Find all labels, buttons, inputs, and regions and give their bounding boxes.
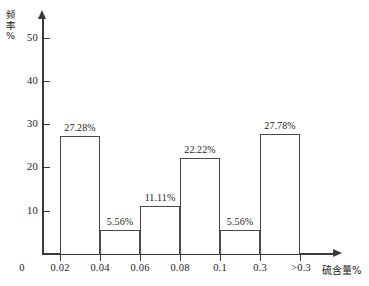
bar-5 <box>260 134 300 254</box>
bars-layer: 27.28% 5.56% 11.11% 22.22% 5.56% 27.78% <box>0 0 369 286</box>
bar-label-1: 5.56% <box>100 216 140 227</box>
bar-label-4: 5.56% <box>220 216 260 227</box>
bar-label-0: 27.28% <box>60 122 100 133</box>
bar-2 <box>140 206 180 254</box>
bar-4 <box>220 230 260 254</box>
bar-3 <box>180 158 220 254</box>
histogram-chart: 频 率 % 硫含量% 50 40 30 20 10 0 0.02 0.04 0.… <box>0 0 369 286</box>
bar-1 <box>100 230 140 254</box>
bar-0 <box>60 136 100 254</box>
bar-label-5: 27.78% <box>260 120 300 131</box>
bar-label-3: 22.22% <box>180 144 220 155</box>
bar-label-2: 11.11% <box>140 192 180 203</box>
